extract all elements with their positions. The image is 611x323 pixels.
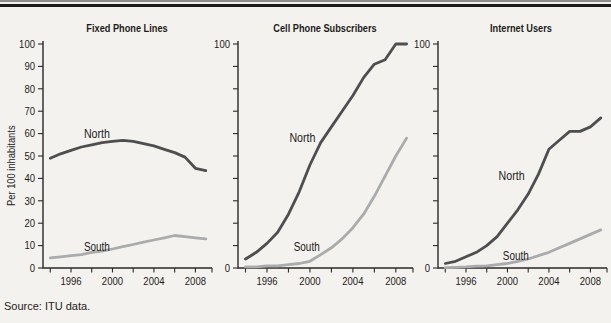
x-tick-label: 2000	[497, 275, 518, 287]
y-tick-label: 0	[225, 262, 230, 274]
series-line-south	[246, 138, 407, 267]
y-tick-label: 50	[24, 150, 35, 162]
x-tick-label: 2004	[342, 275, 363, 287]
series-line-north	[246, 44, 407, 259]
figure-telecom-penetration: Fixed Phone Lines Cell Phone Subscribers…	[0, 0, 611, 323]
y-tick-label: 10	[24, 239, 35, 251]
x-tick-label: 2008	[580, 275, 601, 287]
x-tick-label: 1996	[455, 275, 476, 287]
series-line-south	[50, 236, 206, 258]
y-tick-label: 0	[425, 262, 430, 274]
charts-canvas: 01020304050607080901001996200020042008No…	[0, 0, 611, 323]
chart-panel-0: 01020304050607080901001996200020042008No…	[19, 38, 212, 287]
series-line-north	[50, 140, 206, 170]
x-tick-label: 2004	[143, 275, 164, 287]
y-tick-label: 100	[19, 38, 35, 50]
source-note: Source: ITU data.	[4, 300, 90, 312]
x-tick-label: 2000	[102, 275, 123, 287]
series-label-north: North	[84, 127, 110, 141]
y-tick-label: 100	[214, 38, 230, 50]
axes	[238, 41, 413, 268]
y-tick-label: 90	[24, 60, 35, 72]
x-tick-label: 2000	[299, 275, 320, 287]
y-tick-label: 70	[24, 105, 35, 117]
y-tick-label: 0	[30, 262, 35, 274]
x-tick-label: 1996	[60, 275, 81, 287]
series-label-north: North	[289, 131, 315, 145]
x-tick-label: 2008	[185, 275, 206, 287]
chart-panel-2: 01001996200020042008NorthSouth	[414, 38, 607, 287]
series-label-south: South	[84, 240, 110, 254]
chart-panel-1: 01001996200020042008NorthSouth	[214, 38, 413, 287]
series-line-north	[445, 118, 601, 264]
x-tick-label: 1996	[256, 275, 277, 287]
series-label-north: North	[499, 169, 525, 183]
axes	[438, 41, 607, 268]
y-tick-label: 100	[414, 38, 430, 50]
series-label-south: South	[294, 240, 320, 254]
y-tick-label: 60	[24, 127, 35, 139]
series-label-south: South	[503, 249, 529, 263]
y-tick-label: 20	[24, 217, 35, 229]
axes	[43, 41, 212, 268]
y-tick-label: 30	[24, 195, 35, 207]
x-tick-label: 2008	[385, 275, 406, 287]
x-tick-label: 2004	[538, 275, 559, 287]
y-tick-label: 80	[24, 83, 35, 95]
y-tick-label: 40	[24, 172, 35, 184]
